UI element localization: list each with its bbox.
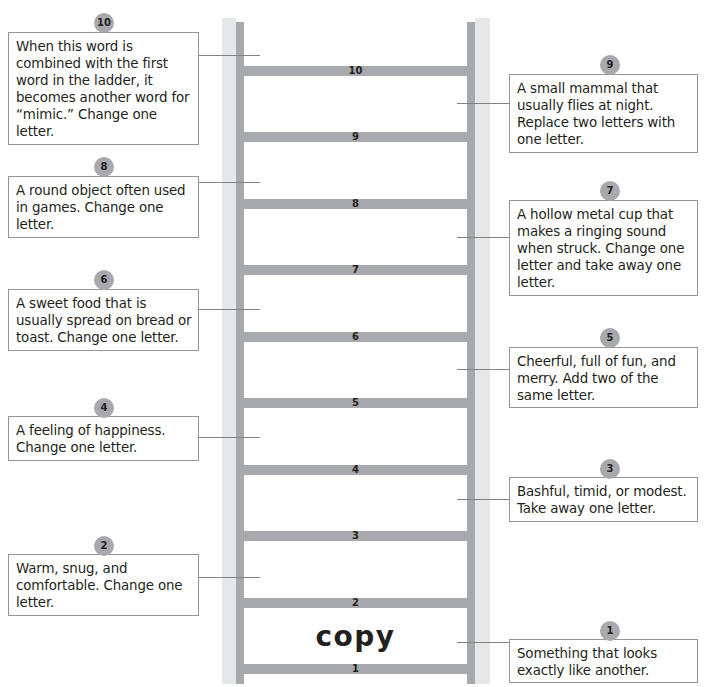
clue-box-8: A round object often used in games. Chan…: [8, 176, 199, 238]
rung-9: 9: [236, 132, 475, 142]
rung-7: 7: [236, 265, 475, 275]
clue-text-7: A hollow metal cup that makes a ringing …: [517, 207, 684, 290]
clue-text-4: A feeling of happiness. Change one lette…: [16, 423, 165, 455]
left-rail-face: [222, 18, 236, 684]
clue-badge-8: 8: [94, 157, 114, 177]
rung-2: 2: [236, 598, 475, 608]
leader-line-2: [199, 577, 260, 578]
rung-8: 8: [236, 199, 475, 209]
clue-text-8: A round object often used in games. Chan…: [16, 183, 185, 232]
clue-badge-3: 3: [600, 459, 620, 479]
clue-text-6: A sweet food that is usually spread on b…: [16, 296, 191, 345]
leader-line-1: [457, 642, 509, 643]
rung-6: 6: [236, 332, 475, 342]
clue-box-5: Cheerful, full of fun, and merry. Add tw…: [509, 347, 698, 408]
clue-text-3: Bashful, timid, or modest. Take away one…: [517, 484, 687, 516]
clue-box-9: A small mammal that usually flies at nig…: [509, 74, 698, 153]
leader-line-8: [199, 182, 260, 183]
clue-badge-9: 9: [600, 55, 620, 75]
leader-line-7: [457, 237, 509, 238]
clue-badge-10: 10: [94, 13, 114, 33]
clue-box-4: A feeling of happiness. Change one lette…: [8, 416, 199, 461]
clue-badge-6: 6: [94, 270, 114, 290]
rung-1: 1: [236, 664, 475, 674]
clue-box-1: Something that looks exactly like anothe…: [509, 639, 698, 683]
rung-5: 5: [236, 398, 475, 408]
clue-box-7: A hollow metal cup that makes a ringing …: [509, 200, 698, 296]
start-word: copy: [236, 620, 475, 653]
right-rail-face: [475, 18, 490, 684]
clue-badge-1: 1: [600, 621, 620, 641]
clue-badge-4: 4: [94, 398, 114, 418]
clue-text-10: When this word is combined with the firs…: [16, 39, 189, 139]
leader-line-3: [457, 499, 509, 500]
rung-3: 3: [236, 531, 475, 541]
rung-10: 10: [236, 66, 475, 76]
clue-text-1: Something that looks exactly like anothe…: [517, 646, 657, 678]
leader-line-10: [199, 55, 260, 56]
clue-box-3: Bashful, timid, or modest. Take away one…: [509, 477, 698, 522]
clue-badge-7: 7: [600, 181, 620, 201]
clue-badge-5: 5: [600, 328, 620, 348]
rung-4: 4: [236, 465, 475, 475]
clue-box-6: A sweet food that is usually spread on b…: [8, 289, 199, 351]
leader-line-9: [457, 103, 509, 104]
clue-badge-2: 2: [94, 536, 114, 556]
left-rail: [236, 22, 244, 684]
clue-text-2: Warm, snug, and comfortable. Change one …: [16, 561, 182, 610]
clue-text-9: A small mammal that usually flies at nig…: [517, 81, 675, 147]
clue-text-5: Cheerful, full of fun, and merry. Add tw…: [517, 354, 676, 403]
leader-line-5: [457, 369, 509, 370]
clue-box-2: Warm, snug, and comfortable. Change one …: [8, 554, 199, 616]
leader-line-6: [199, 309, 260, 310]
right-rail: [467, 22, 475, 684]
clue-box-10: When this word is combined with the firs…: [8, 32, 199, 145]
leader-line-4: [199, 437, 260, 438]
